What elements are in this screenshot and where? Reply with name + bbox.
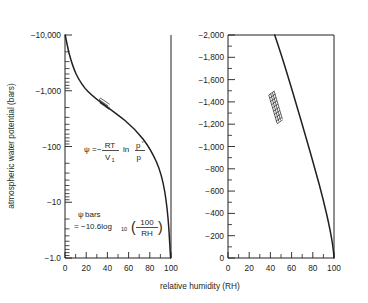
eq2-log-base: 10 <box>121 226 127 232</box>
left-xtick-1: 20 <box>82 263 92 273</box>
right-y-tick-labels: −2,000 −1,800 −1,600 −1,400 −1,200 −1,00… <box>198 30 224 263</box>
right-ytick-8: −400 <box>205 208 224 218</box>
eq1-ln: ln <box>123 145 129 154</box>
eq1-frac2-num-sup: ° <box>142 140 144 146</box>
eq1-lhs: ψ = <box>84 145 97 154</box>
right-ytick-6: −800 <box>205 164 224 174</box>
right-xtick-1: 20 <box>245 263 255 273</box>
equation-psi-rt-ln: ψ = − RT V 1 ln p ° p <box>84 140 145 164</box>
left-xtick-5: 100 <box>164 263 178 273</box>
left-ytick-2: −100 <box>42 142 61 152</box>
right-ytick-4: −1,200 <box>198 119 224 129</box>
eq2-equals: = <box>74 222 79 231</box>
y-axis-title: atmospheric water potential (bars) <box>6 83 16 209</box>
right-curve <box>275 35 334 258</box>
left-ytick-3: −10 <box>47 197 61 207</box>
right-xtick-0: 0 <box>226 263 231 273</box>
eq1-frac2-num: p <box>136 141 141 150</box>
right-ytick-9: −200 <box>205 231 224 241</box>
right-ytick-0: −2,000 <box>198 30 224 40</box>
left-xtick-2: 40 <box>103 263 113 273</box>
right-x-tick-labels: 0 20 40 60 80 100 <box>226 263 342 273</box>
eq2-frac-denominator: RH <box>141 229 153 238</box>
left-y-minor-ticks <box>65 52 70 256</box>
left-y-tick-labels: −10,000 −1,000 −100 −10 −1.0 <box>31 30 62 263</box>
right-axis-frame <box>228 35 334 258</box>
right-xtick-2: 40 <box>266 263 276 273</box>
x-axis-title: relative humidity (RH) <box>160 281 240 291</box>
right-panel: −2,000 −1,800 −1,600 −1,400 −1,200 −1,00… <box>198 30 341 273</box>
eq1-denominator: V <box>105 153 111 162</box>
left-xtick-4: 80 <box>145 263 155 273</box>
eq2-paren-left: ( <box>131 219 136 235</box>
eq2-symbol: ψ <box>78 210 84 219</box>
right-xtick-5: 100 <box>327 263 341 273</box>
eq2-coefficient: −10.6log <box>81 222 112 231</box>
eq1-frac2-den: p <box>137 153 142 162</box>
right-xtick-3: 60 <box>287 263 297 273</box>
right-ytick-1: −1,800 <box>198 52 224 62</box>
right-ytick-5: −1,000 <box>198 142 224 152</box>
two-panel-chart: −10,000 −1,000 −100 −10 −1.0 0 20 40 <box>0 0 368 303</box>
eq1-denominator-sub: 1 <box>112 157 115 163</box>
left-ytick-0: −10,000 <box>31 30 62 40</box>
left-xtick-3: 60 <box>124 263 134 273</box>
left-ytick-1: −1,000 <box>35 86 61 96</box>
eq1-numerator: RT <box>105 141 116 150</box>
left-curve-band <box>99 98 110 109</box>
right-x-minor-ticks <box>239 254 324 258</box>
right-xtick-4: 80 <box>308 263 318 273</box>
left-x-minor-ticks <box>76 254 161 258</box>
figure-container: −10,000 −1,000 −100 −10 −1.0 0 20 40 <box>0 0 368 303</box>
eq2-paren-right: ) <box>158 219 163 235</box>
right-ytick-2: −1,600 <box>198 75 224 85</box>
right-ytick-7: −600 <box>205 186 224 196</box>
equation-psi-bars: ψ bars = −10.6log 10 ( 100 RH ) <box>74 210 163 238</box>
left-ytick-4: −1.0 <box>45 253 62 263</box>
left-xtick-0: 0 <box>63 263 68 273</box>
eq2-unit: bars <box>85 210 101 219</box>
right-curve-band <box>269 91 283 124</box>
right-ytick-3: −1,400 <box>198 97 224 107</box>
right-ytick-10: 0 <box>219 253 224 263</box>
eq1-minus: − <box>97 145 102 154</box>
eq2-frac-numerator: 100 <box>140 218 154 227</box>
left-x-tick-labels: 0 20 40 60 80 100 <box>63 263 179 273</box>
left-panel: −10,000 −1,000 −100 −10 −1.0 0 20 40 <box>31 30 179 273</box>
